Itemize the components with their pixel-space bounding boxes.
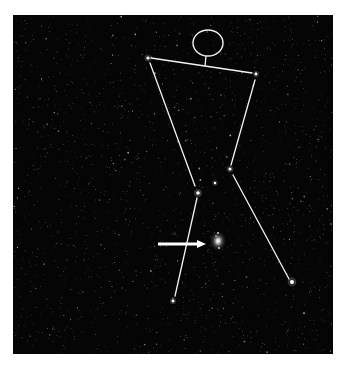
star-saiph-foot xyxy=(172,300,175,303)
star-belt-left xyxy=(196,191,200,195)
star-belt-right xyxy=(229,168,232,171)
star-rigel-foot xyxy=(290,280,294,284)
orion-star-photo xyxy=(0,0,348,365)
star-chart xyxy=(0,0,348,365)
star-betelgeuse-shoulder xyxy=(146,56,149,59)
orion-nebula xyxy=(210,231,226,251)
star-bellatrix-shoulder xyxy=(255,73,258,76)
star-belt-middle xyxy=(214,182,216,184)
